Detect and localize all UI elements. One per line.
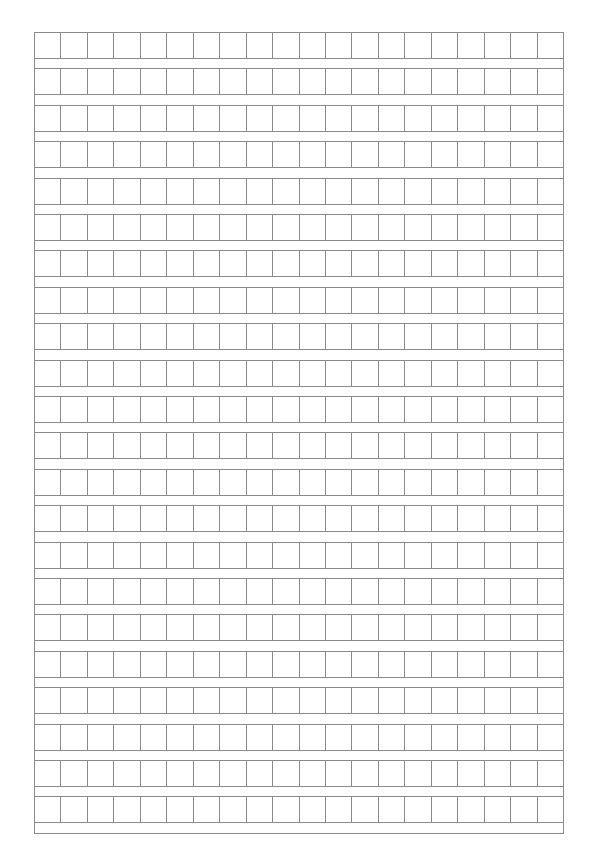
grid-row bbox=[34, 760, 564, 787]
grid-cell bbox=[325, 615, 351, 640]
grid-cell bbox=[378, 579, 404, 604]
grid-cell bbox=[272, 324, 298, 349]
grid-row bbox=[34, 360, 564, 387]
grid-cell bbox=[34, 506, 60, 531]
grid-cell bbox=[351, 397, 377, 422]
grid-cell bbox=[60, 106, 86, 131]
grid-cell bbox=[325, 106, 351, 131]
grid-cell bbox=[431, 579, 457, 604]
grid-cell bbox=[378, 615, 404, 640]
grid-cell bbox=[166, 215, 192, 240]
grid-row bbox=[34, 796, 564, 823]
grid-cell bbox=[272, 215, 298, 240]
grid-cell bbox=[193, 725, 219, 750]
grid-cell bbox=[351, 797, 377, 822]
grid-cell bbox=[404, 251, 430, 276]
grid-cell bbox=[60, 142, 86, 167]
grid-cell bbox=[34, 433, 60, 458]
grid-cell bbox=[166, 179, 192, 204]
grid-cell bbox=[484, 725, 510, 750]
grid-cell bbox=[140, 543, 166, 568]
grid-cell bbox=[166, 797, 192, 822]
grid-cell bbox=[193, 506, 219, 531]
grid-cell bbox=[299, 761, 325, 786]
grid-cell bbox=[457, 142, 483, 167]
grid-cell bbox=[351, 142, 377, 167]
grid-cell bbox=[34, 361, 60, 386]
grid-cell bbox=[431, 797, 457, 822]
grid-cell bbox=[193, 470, 219, 495]
grid-cell bbox=[510, 288, 536, 313]
grid-cell bbox=[87, 106, 113, 131]
grid-cell bbox=[219, 652, 245, 677]
grid-cell bbox=[484, 433, 510, 458]
grid-cell bbox=[246, 761, 272, 786]
grid-cell bbox=[34, 106, 60, 131]
grid-cell bbox=[378, 33, 404, 58]
grid-cell bbox=[87, 615, 113, 640]
grid-cell bbox=[219, 797, 245, 822]
grid-cell bbox=[113, 69, 139, 94]
grid-cell bbox=[219, 33, 245, 58]
grid-cell bbox=[378, 179, 404, 204]
grid-cell bbox=[510, 761, 536, 786]
grid-cell bbox=[219, 506, 245, 531]
grid-cell bbox=[87, 797, 113, 822]
grid-cell bbox=[537, 324, 564, 349]
grid-cell bbox=[272, 251, 298, 276]
grid-cell bbox=[113, 470, 139, 495]
grid-cell bbox=[246, 179, 272, 204]
grid-cell bbox=[351, 652, 377, 677]
grid-cell bbox=[510, 688, 536, 713]
grid-row bbox=[34, 105, 564, 132]
grid-cell bbox=[166, 470, 192, 495]
grid-cell bbox=[246, 725, 272, 750]
grid-cell bbox=[351, 361, 377, 386]
grid-cell bbox=[351, 725, 377, 750]
grid-cell bbox=[351, 579, 377, 604]
grid-cell bbox=[246, 615, 272, 640]
grid-cell bbox=[299, 251, 325, 276]
grid-cell bbox=[351, 543, 377, 568]
grid-cell bbox=[537, 106, 564, 131]
grid-cell bbox=[537, 579, 564, 604]
grid-cell bbox=[325, 579, 351, 604]
grid-cell bbox=[325, 652, 351, 677]
grid-cell bbox=[484, 761, 510, 786]
grid-cell bbox=[60, 288, 86, 313]
grid-cell bbox=[272, 688, 298, 713]
grid-cell bbox=[378, 288, 404, 313]
grid-cell bbox=[113, 215, 139, 240]
grid-cell bbox=[219, 397, 245, 422]
grid-row bbox=[34, 687, 564, 714]
grid-cell bbox=[87, 433, 113, 458]
grid-cell bbox=[219, 615, 245, 640]
grid-cell bbox=[60, 797, 86, 822]
grid-cell bbox=[378, 470, 404, 495]
grid-cell bbox=[484, 797, 510, 822]
grid-cell bbox=[60, 33, 86, 58]
grid-cell bbox=[193, 106, 219, 131]
grid-cell bbox=[404, 652, 430, 677]
grid-cell bbox=[299, 142, 325, 167]
grid-cell bbox=[537, 179, 564, 204]
grid-cell bbox=[246, 361, 272, 386]
grid-cell bbox=[34, 725, 60, 750]
grid-cell bbox=[378, 69, 404, 94]
grid-cell bbox=[34, 251, 60, 276]
grid-cell bbox=[272, 579, 298, 604]
grid-cell bbox=[378, 761, 404, 786]
grid-cell bbox=[351, 688, 377, 713]
grid-cell bbox=[140, 324, 166, 349]
grid-cell bbox=[87, 142, 113, 167]
grid-cell bbox=[378, 652, 404, 677]
grid-cell bbox=[537, 288, 564, 313]
grid-cell bbox=[537, 361, 564, 386]
grid-cell bbox=[325, 215, 351, 240]
grid-cell bbox=[272, 797, 298, 822]
grid-row bbox=[34, 396, 564, 423]
grid-cell bbox=[34, 688, 60, 713]
grid-cell bbox=[510, 324, 536, 349]
grid-cell bbox=[431, 725, 457, 750]
grid-cell bbox=[457, 797, 483, 822]
